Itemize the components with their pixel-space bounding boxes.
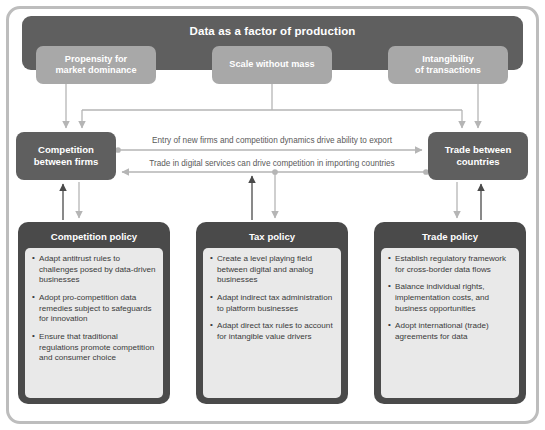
driver-label: Scale without mass: [229, 59, 314, 71]
policy-bullet: Adapt direct tax rules to account for in…: [210, 321, 334, 342]
policy-body: Establish regulatory framework for cross…: [381, 248, 519, 398]
flow-label-trade-to-firms: Trade in digital services can drive comp…: [120, 159, 424, 168]
node-label: Trade betweencountries: [445, 144, 512, 169]
policy-title: Trade policy: [381, 228, 519, 248]
node-competition-between-firms: Competitionbetween firms: [16, 132, 116, 180]
policy-title: Tax policy: [203, 228, 341, 248]
policy-bullet: Adopt international (trade) agreements f…: [388, 321, 512, 342]
policy-title: Competition policy: [25, 228, 163, 248]
driver-box-propensity: Propensity formarket dominance: [36, 46, 156, 84]
driver-box-intangibility: Intangibilityof transactions: [388, 46, 508, 84]
policy-bullet: Adapt indirect tax administration to pla…: [210, 293, 334, 314]
flow-label-firms-to-trade: Entry of new firms and competition dynam…: [120, 136, 424, 145]
policy-bullet: Adopt pro-competition data remedies subj…: [32, 293, 156, 325]
driver-box-scale: Scale without mass: [212, 46, 332, 84]
policy-bullet-list: Adapt antitrust rules to challenges pose…: [32, 254, 156, 364]
node-trade-between-countries: Trade betweencountries: [428, 132, 528, 180]
diagram-canvas: Data as a factor of production Propensit…: [0, 0, 545, 430]
policy-card-tax: Tax policy Create a level playing field …: [196, 222, 348, 404]
node-label: Competitionbetween firms: [34, 144, 99, 169]
driver-label: Propensity formarket dominance: [55, 54, 136, 77]
driver-label: Intangibilityof transactions: [415, 54, 481, 77]
policy-card-trade: Trade policy Establish regulatory framew…: [374, 222, 526, 404]
policy-card-competition: Competition policy Adapt antitrust rules…: [18, 222, 170, 404]
policy-bullet: Ensure that traditional regulations prom…: [32, 332, 156, 364]
policy-bullet-list: Create a level playing field between dig…: [210, 254, 334, 343]
policy-bullet-list: Establish regulatory framework for cross…: [388, 254, 512, 343]
policy-body: Create a level playing field between dig…: [203, 248, 341, 398]
policy-body: Adapt antitrust rules to challenges pose…: [25, 248, 163, 398]
policy-bullet: Adapt antitrust rules to challenges pose…: [32, 254, 156, 286]
policy-bullet: Balance individual rights, implementatio…: [388, 282, 512, 314]
policy-bullet: Create a level playing field between dig…: [210, 254, 334, 286]
policy-bullet: Establish regulatory framework for cross…: [388, 254, 512, 275]
